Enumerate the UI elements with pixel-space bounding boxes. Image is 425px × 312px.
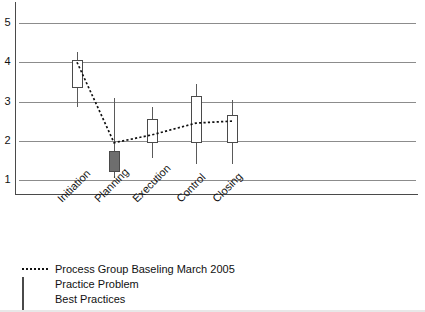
legend-label-baseline: Process Group Baseling March 2005 xyxy=(55,263,235,275)
chart-legend: Process Group Baseling March 2005 Practi… xyxy=(22,261,322,306)
legend-item-practice-problem: Practice Problem xyxy=(22,276,322,291)
legend-label-practice-problem: Practice Problem xyxy=(55,278,139,290)
y-axis: 5 4 3 2 1 xyxy=(0,2,14,195)
y-tick-2: 2 xyxy=(1,135,14,146)
practice-problem-swatch-icon xyxy=(22,278,48,289)
y-tick-5: 5 xyxy=(1,17,14,28)
chart-figure: 5 4 3 2 1 InitiationPlanningExecutionCon… xyxy=(0,0,425,312)
x-axis-labels: InitiationPlanningExecutionControlClosin… xyxy=(15,196,418,256)
legend-label-best-practices: Best Practices xyxy=(55,293,125,305)
dotted-line-icon xyxy=(22,263,48,274)
legend-item-best-practices: Best Practices xyxy=(22,291,322,306)
plot-area xyxy=(15,2,418,195)
y-tick-4: 4 xyxy=(1,56,14,67)
baseline-polyline xyxy=(77,62,232,142)
baseline-series xyxy=(15,2,418,195)
y-tick-1: 1 xyxy=(1,174,14,185)
best-practices-swatch-icon xyxy=(22,293,48,304)
y-tick-3: 3 xyxy=(1,96,14,107)
legend-item-baseline: Process Group Baseling March 2005 xyxy=(22,261,322,276)
